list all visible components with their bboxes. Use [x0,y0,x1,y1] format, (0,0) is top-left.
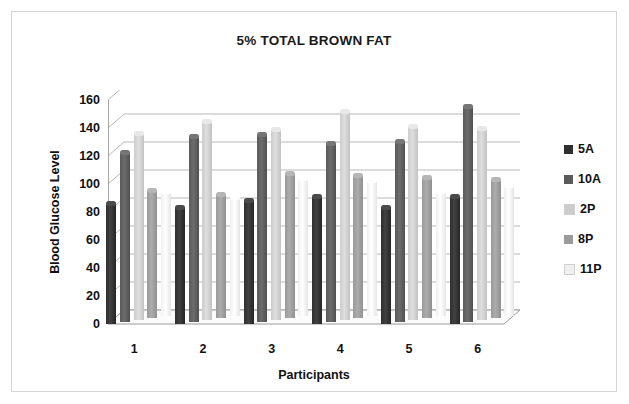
bar-cap [134,131,144,136]
bar-10A-group-1 [120,150,130,322]
bar-body [367,181,377,317]
bar-cap [257,132,267,137]
bar-10A-group-2 [189,134,199,322]
bar-cap [491,177,501,182]
legend-swatch-icon [564,175,573,184]
bar-2P-group-5 [408,124,418,320]
bar-body [175,208,185,324]
legend-swatch-icon [564,204,575,215]
bar-body [161,192,171,316]
legend-swatch-icon [564,264,575,275]
bar-11P-group-5 [436,189,446,316]
y-tick-label: 20 [86,289,100,303]
y-tick-label: 80 [86,205,100,219]
bar-cap [408,124,418,129]
legend-label: 2P [580,202,595,216]
bar-2P-group-3 [271,127,281,320]
chart-frame: 5% TOTAL BROWN FAT Blood Glucose Level 0… [11,11,617,392]
bar-5A-group-6 [450,194,460,324]
bar-cap [230,195,240,200]
legend-item-11P[interactable]: 11P [564,254,626,284]
bar-body [216,195,226,318]
bar-cap [477,126,487,131]
bar-8P-group-2 [216,192,226,318]
x-tick-label: 4 [337,342,344,356]
legend-swatch-icon [564,145,573,154]
bar-8P-group-1 [147,188,157,318]
bar-body [244,201,254,324]
x-tick-label: 1 [131,342,138,356]
bar-cap [353,173,363,178]
bar-cap [340,109,350,114]
bar-cap [381,205,391,210]
bar-8P-group-5 [422,175,432,318]
bar-11P-group-3 [298,176,308,316]
legend-item-10A[interactable]: 10A [564,164,626,194]
x-axis-ticks: 123456 [108,342,520,360]
bar-cap [312,194,322,199]
bar-cap [189,134,199,139]
bar-8P-group-3 [285,171,295,318]
legend-label: 11P [580,262,602,276]
bar-body [134,134,144,320]
legend-label: 5A [578,142,594,156]
bar-body [463,107,473,322]
bar-body [422,178,432,318]
x-tick-label: 3 [268,342,275,356]
bar-cap [244,198,254,203]
chart-legend: 5A10A2P8P11P [564,134,626,284]
bar-body [381,208,391,324]
bar-8P-group-4 [353,173,363,319]
bar-11P-group-2 [230,195,240,317]
legend-label: 8P [578,232,593,246]
legend-item-5A[interactable]: 5A [564,134,626,164]
bar-10A-group-3 [257,132,267,322]
x-tick-label: 6 [474,342,481,356]
bar-cap [450,194,460,199]
bar-11P-group-6 [504,183,514,316]
bar-cap [161,189,171,194]
bar-cap [285,171,295,176]
bar-cap [271,127,281,132]
bar-body [106,204,116,324]
bar-5A-group-2 [175,205,185,324]
bar-cap [106,201,116,206]
bar-5A-group-1 [106,201,116,324]
bar-cap [367,178,377,183]
bar-5A-group-3 [244,198,254,324]
y-tick-label: 40 [86,261,100,275]
legend-item-8P[interactable]: 8P [564,224,626,254]
bar-body [326,144,336,322]
bar-body [450,197,460,324]
bar-body [504,186,514,316]
legend-item-2P[interactable]: 2P [564,194,626,224]
y-tick-label: 160 [79,93,100,107]
bar-body [120,153,130,322]
bar-10A-group-6 [463,104,473,322]
bar-5A-group-5 [381,205,391,324]
y-tick-label: 120 [79,149,100,163]
bar-body [477,129,487,321]
bar-cap [463,104,473,109]
bar-body [312,197,322,324]
bar-body [353,176,363,319]
bar-body [285,174,295,318]
bar-body [147,191,157,318]
y-tick-label: 100 [79,177,100,191]
bar-body [230,198,240,317]
y-tick-label: 0 [93,317,100,331]
bar-10A-group-5 [395,139,405,322]
bar-cap [436,189,446,194]
bar-body [202,122,212,321]
bar-2P-group-2 [202,119,212,321]
bar-cap [202,119,212,124]
legend-swatch-icon [564,235,573,244]
y-axis-title-label: Blood Glucose Level [48,150,62,274]
bar-body [395,142,405,322]
plot-area: 020406080100120140160 [108,90,520,334]
x-tick-label: 5 [406,342,413,356]
bar-body [257,135,267,322]
bar-8P-group-6 [491,177,501,318]
bar-cap [422,175,432,180]
bar-body [491,180,501,318]
